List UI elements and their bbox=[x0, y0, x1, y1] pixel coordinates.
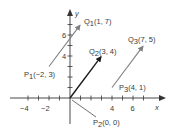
x-tick-label: −4 bbox=[20, 104, 29, 113]
y-tick-label: 4 bbox=[62, 52, 66, 61]
vector-diagram: −4 −2 4 6 x 6 4 y Q1(1, 7) Q2(3, 4) Q3( bbox=[0, 0, 169, 133]
label-q2: Q2(3, 4) bbox=[89, 47, 117, 58]
label-p2: P2(0, 0) bbox=[93, 118, 120, 129]
y-axis-label: y bbox=[74, 9, 80, 18]
label-q3: Q3(7, 5) bbox=[128, 35, 156, 46]
x-axis: −4 −2 4 6 x bbox=[10, 95, 166, 113]
x-tick-label: 6 bbox=[131, 104, 135, 113]
y-axis-arrow-icon bbox=[67, 9, 73, 16]
label-p3: P3(4, 1) bbox=[119, 83, 146, 94]
x-tick-label: −2 bbox=[41, 104, 50, 113]
x-axis-arrow-icon bbox=[159, 95, 166, 101]
vector-p3-q3 bbox=[112, 46, 143, 87]
y-tick-label: 6 bbox=[62, 31, 66, 40]
y-axis: 6 4 y bbox=[62, 9, 80, 124]
x-tick-label: 4 bbox=[110, 104, 114, 113]
label-q1: Q1(1, 7) bbox=[84, 17, 112, 28]
vector-p2-q2 bbox=[70, 57, 101, 98]
p2-leader-line bbox=[72, 100, 96, 117]
label-p1: P1(−2, 3) bbox=[24, 70, 56, 81]
x-axis-label: x bbox=[154, 103, 159, 112]
